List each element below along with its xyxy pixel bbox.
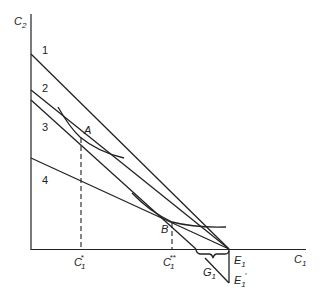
e1-label: E1 bbox=[234, 254, 246, 269]
line-label-4: 4 bbox=[42, 174, 48, 186]
budget-line-1 bbox=[31, 54, 229, 249]
consumption-diagram: C2 C1 1 2 3 4 A B C1* C1** E1 E1′ G1 bbox=[0, 0, 320, 301]
budget-line-3 bbox=[31, 100, 196, 249]
x-axis-label: C1 bbox=[294, 253, 306, 268]
point-a-label: A bbox=[83, 124, 91, 136]
e1-prime-label: E1′ bbox=[234, 271, 247, 289]
brace-g1 bbox=[196, 250, 229, 258]
y-axis-label: C2 bbox=[14, 15, 27, 30]
line-label-3: 3 bbox=[42, 121, 48, 133]
line-label-2: 2 bbox=[42, 82, 48, 94]
point-b-label: B bbox=[161, 223, 168, 235]
tick-c1-star: C1* bbox=[74, 253, 85, 271]
tick-c1-double-star: C1** bbox=[163, 253, 177, 271]
budget-line-4 bbox=[31, 158, 229, 249]
line-label-1: 1 bbox=[42, 44, 48, 56]
indifference-curve-b bbox=[132, 193, 226, 227]
budget-line-2 bbox=[31, 90, 229, 249]
